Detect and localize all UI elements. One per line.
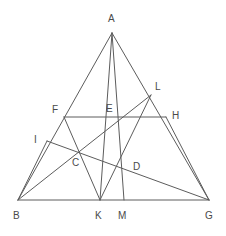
point-label-m: M	[118, 211, 126, 221]
geometry-canvas	[0, 0, 226, 236]
segment-b-to-i	[18, 141, 47, 200]
point-label-i: I	[34, 135, 37, 145]
point-label-a: A	[108, 14, 115, 24]
line-i-through-c-d-to-g	[47, 141, 209, 200]
point-label-c: C	[72, 158, 79, 168]
segment-h-to-g	[166, 117, 209, 200]
point-label-k: K	[95, 211, 102, 221]
point-label-l: L	[155, 82, 161, 92]
point-label-h: H	[172, 111, 179, 121]
geometry-figure: ABGFEHLICDKM	[0, 0, 226, 236]
point-label-e: E	[106, 104, 113, 114]
point-label-g: G	[205, 211, 213, 221]
point-label-d: D	[133, 162, 140, 172]
point-label-b: B	[13, 211, 20, 221]
point-label-f: F	[52, 105, 58, 115]
line-b-through-c-e-to-l	[18, 95, 151, 200]
